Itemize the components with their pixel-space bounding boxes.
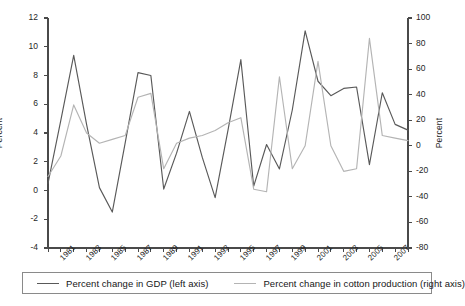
y-tick-label-left: 6 xyxy=(16,98,38,108)
y-tick-label-right: 100 xyxy=(416,12,440,22)
y-tick-label-left: 8 xyxy=(16,70,38,80)
series-line-gdp xyxy=(48,31,408,212)
chart-legend: Percent change in GDP (left axis) Percen… xyxy=(22,272,432,294)
y-tick-label-left: 12 xyxy=(16,12,38,22)
legend-swatch-cotton xyxy=(234,283,256,284)
y-tick-label-right: 60 xyxy=(416,63,440,73)
legend-item-gdp: Percent change in GDP (left axis) xyxy=(37,278,208,289)
y-tick-label-left: -2 xyxy=(16,213,38,223)
y-tick-label-right: -80 xyxy=(416,242,440,252)
left-axis-title: Percent xyxy=(0,118,4,149)
legend-swatch-gdp xyxy=(37,283,59,284)
legend-label-cotton: Percent change in cotton production (rig… xyxy=(263,278,464,289)
legend-item-cotton: Percent change in cotton production (rig… xyxy=(234,278,464,289)
legend-label-gdp: Percent change in GDP (left axis) xyxy=(66,278,208,289)
chart-plot-svg xyxy=(0,0,455,268)
y-tick-label-right: -40 xyxy=(416,191,440,201)
y-tick-label-right: -20 xyxy=(416,165,440,175)
series-line-cotton xyxy=(48,38,408,191)
axes-layer xyxy=(44,18,412,252)
y-tick-label-left: 10 xyxy=(16,41,38,51)
y-tick-label-right: -60 xyxy=(416,216,440,226)
y-tick-label-right: 0 xyxy=(416,140,440,150)
footer-fragment-strip xyxy=(0,296,455,306)
y-tick-label-left: 2 xyxy=(16,156,38,166)
y-tick-label-left: -4 xyxy=(16,242,38,252)
series-layer xyxy=(48,31,408,212)
y-tick-label-right: 20 xyxy=(416,114,440,124)
y-tick-label-left: 0 xyxy=(16,185,38,195)
y-tick-label-right: 80 xyxy=(416,38,440,48)
y-tick-label-right: 40 xyxy=(416,89,440,99)
y-tick-label-left: 4 xyxy=(16,127,38,137)
chart-area: Percent Percent -4-2024681012 -80-60-40-… xyxy=(0,0,455,268)
